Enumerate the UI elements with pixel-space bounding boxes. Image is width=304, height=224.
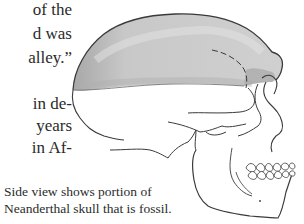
mandible-outline (193, 150, 292, 218)
caption-line-1: Side view shows portion of (4, 183, 172, 200)
teeth (246, 163, 295, 179)
skull-back-outline (72, 90, 124, 140)
figure-caption: Side view shows portion of Neanderthal s… (4, 183, 172, 217)
caption-line-2: Neanderthal skull that is fossil. (4, 200, 172, 217)
